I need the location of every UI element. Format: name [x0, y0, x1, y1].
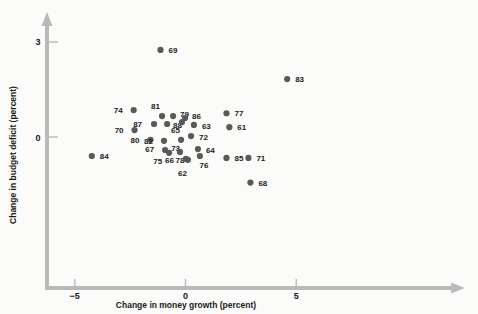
- y-axis-title: Change in budget deficit (percent): [8, 86, 18, 224]
- data-point: 61: [226, 123, 247, 132]
- data-point-marker: [177, 149, 183, 155]
- data-point: 84: [89, 152, 110, 161]
- data-point: 71: [245, 154, 266, 163]
- data-point-marker: [185, 157, 191, 163]
- data-point: 67: [145, 145, 168, 154]
- ticks-group: −50503: [35, 37, 298, 301]
- data-point-label: 72: [199, 133, 208, 142]
- data-point-marker: [226, 124, 232, 130]
- y-axis-arrowhead: [42, 12, 53, 26]
- x-axis-arrowhead: [451, 283, 465, 294]
- data-point-marker: [131, 107, 137, 113]
- data-point-marker: [191, 122, 197, 128]
- data-point-marker: [179, 119, 185, 125]
- data-point-label: 63: [202, 122, 211, 131]
- data-point-marker: [161, 138, 167, 144]
- data-point-marker: [159, 113, 165, 119]
- data-point-marker: [188, 133, 194, 139]
- data-point-label: 74: [114, 106, 123, 115]
- data-point-label: 87: [133, 120, 142, 129]
- data-point-label: 85: [234, 154, 243, 163]
- data-point-label: 65: [171, 126, 180, 135]
- data-point-marker: [178, 137, 184, 143]
- data-point: 77: [223, 109, 244, 118]
- data-point: 74: [114, 106, 137, 115]
- y-tick-label: 0: [35, 133, 40, 143]
- data-point-marker: [89, 153, 95, 159]
- data-point: 81: [151, 102, 165, 119]
- x-tick-label: −5: [70, 291, 80, 301]
- x-axis-title: Change in money growth (percent): [116, 300, 256, 310]
- data-point-label: 77: [234, 109, 243, 118]
- data-point: 68: [247, 179, 268, 188]
- data-point: 76: [197, 153, 209, 170]
- data-point: 63: [191, 122, 212, 131]
- data-point: 83: [284, 75, 305, 84]
- data-point-marker: [170, 113, 176, 119]
- data-point-label: 71: [256, 154, 265, 163]
- scatter-chart: −50503 698374708187887986656377617280827…: [0, 0, 478, 314]
- data-point-marker: [284, 76, 290, 82]
- data-point-label: 86: [192, 112, 201, 121]
- data-point-marker: [151, 121, 157, 127]
- data-point-label: 64: [206, 146, 215, 155]
- data-point: 72: [188, 133, 209, 142]
- data-point-marker: [245, 155, 251, 161]
- data-point-label: 84: [100, 152, 109, 161]
- data-point-marker: [223, 155, 229, 161]
- x-tick-label: 5: [294, 291, 299, 301]
- data-point-label: 66: [165, 156, 174, 165]
- data-point-marker: [195, 146, 201, 152]
- data-point-marker: [197, 153, 203, 159]
- data-point: 69: [157, 46, 178, 55]
- data-point-marker: [157, 47, 163, 53]
- data-point-label: 76: [199, 161, 208, 170]
- data-point-label: 80: [131, 136, 140, 145]
- data-point-marker: [247, 180, 253, 186]
- y-tick-label: 3: [35, 37, 40, 47]
- data-point-label: 67: [145, 145, 154, 154]
- data-point: 87: [133, 120, 157, 129]
- data-point-label: 61: [237, 123, 246, 132]
- chart-canvas: −50503 698374708187887986656377617280827…: [0, 0, 478, 314]
- data-point-label: 70: [115, 126, 124, 135]
- data-point: 85: [223, 154, 244, 163]
- data-point-label: 69: [168, 46, 177, 55]
- data-point-marker: [164, 121, 170, 127]
- data-point-label: 62: [178, 169, 187, 178]
- data-points-group: 6983747081878879866563776172808273677578…: [89, 46, 305, 188]
- data-point-label: 68: [258, 179, 267, 188]
- data-point-label: 83: [295, 75, 304, 84]
- data-point-marker: [223, 110, 229, 116]
- data-point-label: 75: [153, 157, 162, 166]
- data-point-label: 81: [151, 102, 160, 111]
